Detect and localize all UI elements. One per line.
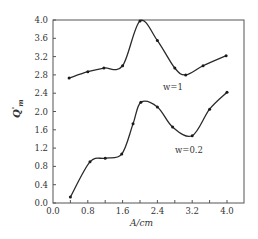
data-point-marker xyxy=(184,73,187,76)
y-tick-label: 2.8 xyxy=(34,70,48,80)
line-chart: 0.00.40.81.21.62.02.42.83.23.64.0 0.00.8… xyxy=(0,0,258,239)
y-axis-title-sub: m xyxy=(16,99,25,106)
data-point-marker xyxy=(86,70,89,73)
data-point-marker xyxy=(139,101,142,104)
data-point-marker xyxy=(102,67,105,70)
data-point-marker xyxy=(88,160,91,163)
data-point-marker xyxy=(173,67,176,70)
data-point-marker xyxy=(68,77,71,80)
x-tick-label: 0.0 xyxy=(46,206,60,216)
data-point-marker xyxy=(191,134,194,137)
x-tick-label: 4.0 xyxy=(220,206,234,216)
series-label-w02: w=0.2 xyxy=(175,145,203,155)
y-tick-label: 3.6 xyxy=(34,33,48,43)
y-tick-label: 4.0 xyxy=(34,15,48,25)
y-axis-title: Q'm xyxy=(9,99,25,118)
y-tick-label: 2.4 xyxy=(34,88,48,98)
series-curves xyxy=(68,19,229,198)
x-tick-label: 1.6 xyxy=(116,206,130,216)
x-tick-label: 0.8 xyxy=(81,206,95,216)
data-point-marker xyxy=(225,54,228,57)
y-tick-label: 3.2 xyxy=(34,52,48,62)
data-point-marker xyxy=(226,91,229,94)
data-point-marker xyxy=(156,39,159,42)
curve-w1 xyxy=(69,20,226,78)
svg-text:Q'm: Q'm xyxy=(9,99,25,118)
series-label-w1: w=1 xyxy=(163,82,183,92)
curve-w02 xyxy=(70,92,227,197)
y-tick-label: 1.2 xyxy=(34,143,48,153)
x-axis-title: A/cm xyxy=(129,218,153,228)
y-tick-label: 1.6 xyxy=(34,125,48,135)
data-point-marker xyxy=(208,108,211,111)
x-tick-label: 2.4 xyxy=(151,206,165,216)
data-point-marker xyxy=(132,122,135,125)
y-tick-label: 2.0 xyxy=(34,107,48,117)
data-point-marker xyxy=(156,105,159,108)
y-tick-label: 0.8 xyxy=(34,161,48,171)
data-point-marker xyxy=(171,126,174,129)
data-point-marker xyxy=(104,157,107,160)
y-axis-title-main: Q xyxy=(11,109,22,118)
data-point-marker xyxy=(120,153,123,156)
x-tick-label: 3.2 xyxy=(185,206,199,216)
x-axis-ticks: 0.00.81.62.43.24.0 xyxy=(46,200,234,216)
data-point-marker xyxy=(202,64,205,67)
data-point-marker xyxy=(121,64,124,67)
y-tick-label: 0.4 xyxy=(34,180,48,190)
data-point-marker xyxy=(139,19,142,22)
data-point-marker xyxy=(69,196,72,199)
